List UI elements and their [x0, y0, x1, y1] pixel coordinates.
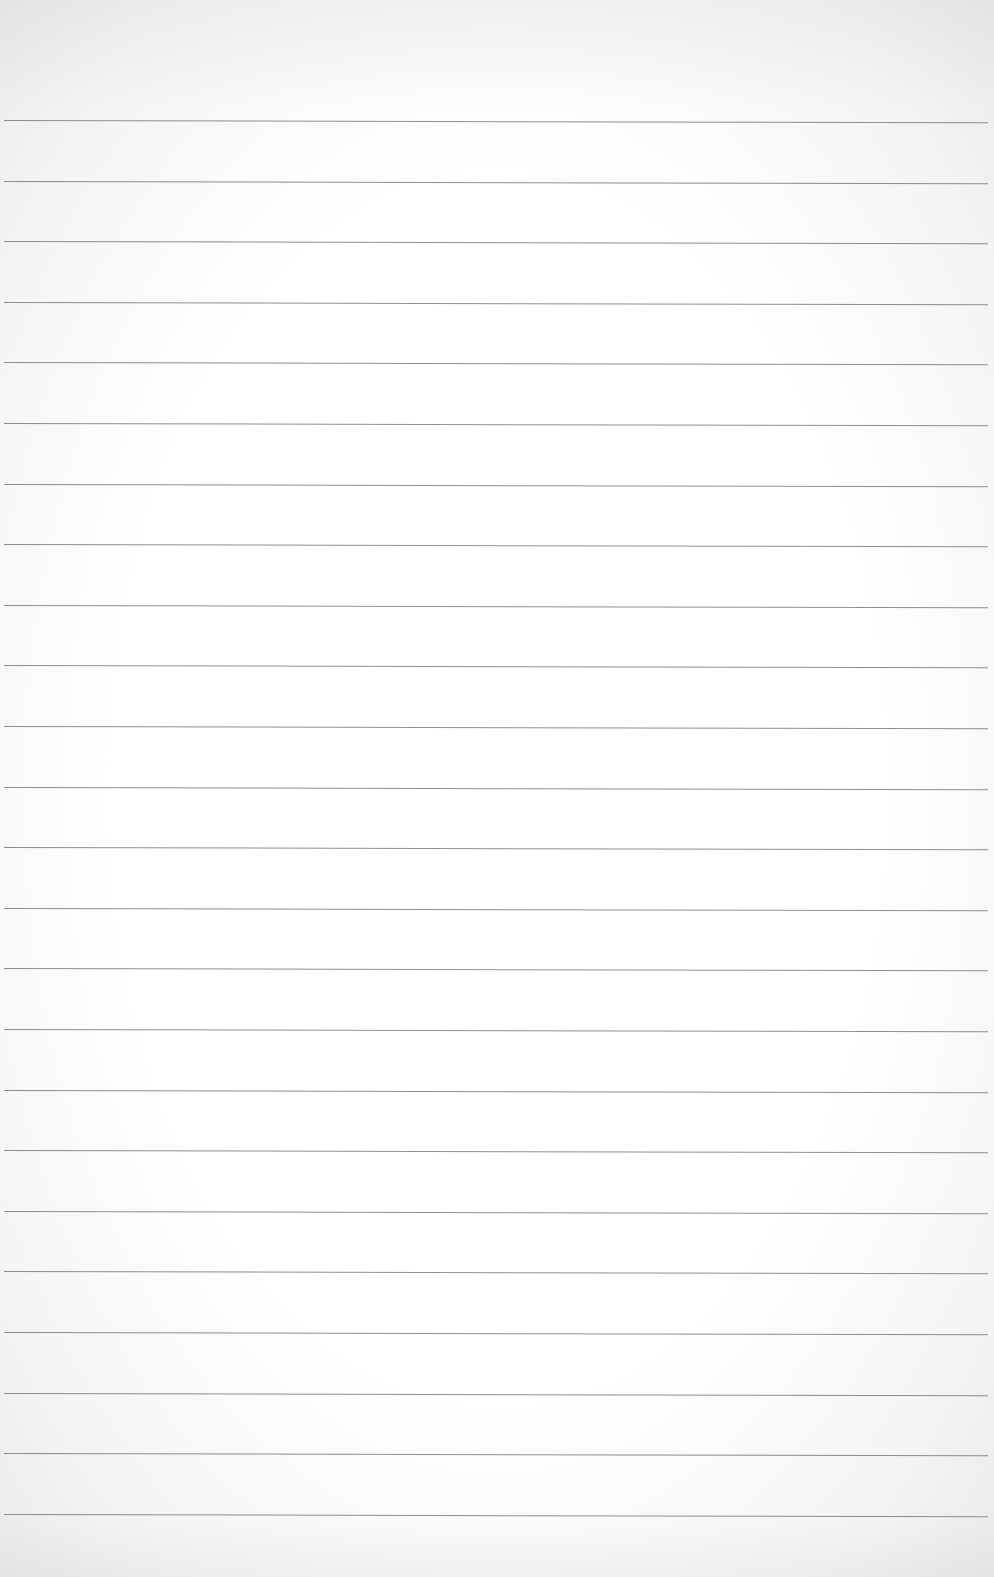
ruled-line [4, 726, 988, 729]
ruled-line [4, 908, 988, 911]
ruled-line [4, 120, 988, 123]
lined-paper-page [0, 0, 994, 1577]
ruled-line [4, 1332, 988, 1335]
ruled-line [4, 1150, 988, 1153]
ruled-line [4, 1453, 988, 1456]
ruled-line [4, 362, 988, 365]
ruled-line [4, 181, 988, 184]
ruled-line [4, 241, 988, 244]
ruled-line [4, 665, 988, 668]
ruled-line [4, 787, 988, 790]
ruled-line [4, 1211, 988, 1214]
ruled-line [4, 968, 988, 971]
ruled-line [4, 302, 988, 305]
bleed-through-texture-bottom [0, 1517, 994, 1577]
ruled-line [4, 605, 988, 608]
ruled-line [4, 1090, 988, 1093]
bleed-through-texture-top [0, 0, 994, 110]
ruled-line [4, 544, 988, 547]
ruled-line [4, 1271, 988, 1274]
ruled-line [4, 484, 988, 487]
ruled-line [4, 847, 988, 850]
ruled-line [4, 1029, 988, 1032]
ruled-line [4, 1393, 988, 1396]
ruled-line [4, 423, 988, 426]
